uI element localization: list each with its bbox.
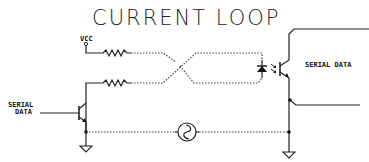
- ground-node: [287, 130, 291, 134]
- output-wire: [290, 100, 360, 105]
- crossover-wire: [180, 66, 262, 83]
- vcc-label: VCC: [80, 35, 93, 43]
- resistor-bottom-icon: [103, 80, 131, 86]
- resistor-top-icon: [103, 50, 131, 56]
- ground-right-icon: [283, 152, 295, 158]
- ground-left-icon: [80, 146, 92, 152]
- current-loop-diagram: CURRENT LOOP VCC SERIAL DATA: [0, 0, 369, 162]
- ac-source-icon: [178, 123, 196, 141]
- diagram-title: CURRENT LOOP: [92, 6, 280, 30]
- npn-transistor-icon: SERIAL DATA: [8, 101, 86, 132]
- phototransistor-icon: SERIAL DATA: [280, 29, 369, 152]
- led-icon: [257, 60, 276, 78]
- serial-data-out-label: SERIAL DATA: [305, 61, 352, 69]
- serial-data-in-label-line2: DATA: [15, 108, 33, 116]
- transistor-collector-wire: [86, 83, 103, 132]
- vcc-supply: VCC: [80, 35, 103, 53]
